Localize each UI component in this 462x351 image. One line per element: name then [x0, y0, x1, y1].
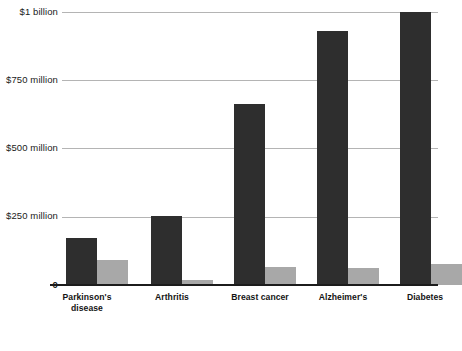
category-label-diabetes: Diabetes — [388, 292, 462, 303]
category-label-line-2: disease — [71, 303, 103, 313]
category-label-arthritis: Arthritis — [136, 292, 208, 303]
plot-area — [62, 12, 438, 285]
bar-parkinsons-disease-series-1 — [66, 238, 97, 285]
bar-alzheimers-series-2 — [348, 268, 379, 285]
bar-breast-cancer-series-1 — [234, 104, 265, 285]
x-axis-category-labels: Parkinson's disease Arthritis Breast can… — [0, 292, 438, 337]
bar-breast-cancer-series-2 — [265, 267, 296, 285]
category-label-breast-cancer: Breast cancer — [216, 292, 304, 303]
bar-parkinsons-disease-series-2 — [97, 260, 128, 285]
y-tick-label-1000: $1 billion — [20, 6, 59, 17]
bar-arthritis-series-1 — [151, 216, 182, 285]
gridline-750 — [62, 80, 438, 81]
y-tick-label-250: $250 million — [6, 210, 58, 221]
y-tick-label-500: $500 million — [6, 142, 58, 153]
category-label-alzheimers: Alzheimer's — [303, 292, 383, 303]
bar-alzheimers-series-1 — [317, 31, 348, 285]
bar-diabetes-series-1 — [400, 12, 431, 285]
y-axis-labels: $1 billion $750 million $500 million $25… — [0, 0, 58, 300]
category-label-line-1: Parkinson's — [63, 292, 112, 302]
gridline-1000 — [62, 12, 438, 13]
y-tick-label-750: $750 million — [6, 74, 58, 85]
x-axis-baseline — [50, 284, 438, 286]
bar-diabetes-series-2 — [431, 264, 462, 285]
category-label-parkinsons-disease: Parkinson's disease — [51, 292, 123, 314]
